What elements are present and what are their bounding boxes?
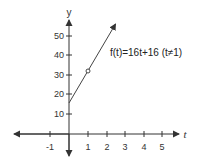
y-tick-label: 50: [54, 31, 64, 41]
x-tick-label: 5: [159, 142, 164, 152]
x-tick-label: 4: [141, 142, 146, 152]
function-label: f(t)=16t+16 (t≠1): [110, 47, 182, 58]
y-tick-label: 10: [54, 109, 64, 119]
x-tick-label: 1: [85, 142, 90, 152]
x-axis-label: t: [183, 128, 187, 140]
y-tick-label: 30: [54, 70, 64, 80]
function-graph: -1 1 2 3 4 5 10 20 30 40 50 y t f(t)=16t…: [0, 0, 197, 161]
y-tick-label: 20: [54, 89, 64, 99]
graph-canvas: -1 1 2 3 4 5 10 20 30 40 50 y t f(t)=16t…: [0, 0, 197, 161]
function-line: [69, 24, 116, 103]
x-tick-label: 2: [104, 142, 109, 152]
x-tick-label: -1: [46, 142, 54, 152]
open-circle-hole: [86, 69, 90, 73]
y-tick-label: 40: [54, 50, 64, 60]
x-tick-label: 3: [122, 142, 127, 152]
y-axis-label: y: [67, 7, 72, 18]
